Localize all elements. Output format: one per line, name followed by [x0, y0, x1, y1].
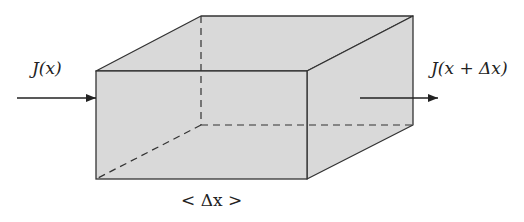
outflow-label-text: J(x + Δx) [431, 58, 508, 78]
control-volume-diagram [0, 0, 524, 222]
inflow-label-text: J(x) [32, 58, 62, 78]
inflow-label: J(x) [32, 58, 62, 78]
width-label-text: < Δx > [181, 190, 242, 210]
outflow-label: J(x + Δx) [431, 58, 508, 78]
width-label: < Δx > [181, 190, 242, 210]
